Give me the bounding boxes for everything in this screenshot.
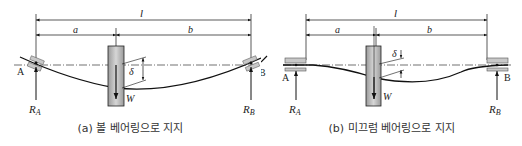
caption-a: (a) 볼 베어링으로 지지 — [0, 119, 261, 135]
caption-b: (b) 미끄럼 베어링으로 지지 — [261, 119, 522, 135]
label-RA: RA — [288, 103, 301, 117]
deflected-shaft — [20, 57, 261, 89]
panel-sliding-bearing: B l a b W δ A — [261, 0, 522, 146]
label-l: l — [140, 7, 143, 19]
label-b: b — [188, 24, 193, 35]
label-support-B: B — [504, 72, 511, 83]
label-delta: δ — [392, 48, 397, 59]
deflected-shaft — [283, 65, 508, 82]
label-b: b — [427, 24, 432, 35]
label-RA: RA — [28, 103, 41, 117]
label-support-A: A — [17, 66, 25, 77]
label-W: W — [383, 91, 393, 102]
panel-ball-bearing: l a b W δ A RA — [0, 0, 261, 146]
label-support-A: A — [282, 72, 290, 83]
label-l: l — [394, 7, 397, 19]
label-W: W — [126, 93, 136, 104]
label-delta: δ — [129, 66, 134, 77]
label-RB: RB — [488, 103, 501, 117]
label-a: a — [335, 24, 340, 35]
label-RB: RB — [242, 103, 255, 117]
label-a: a — [73, 24, 78, 35]
label-support-B-spill: B — [261, 67, 266, 78]
